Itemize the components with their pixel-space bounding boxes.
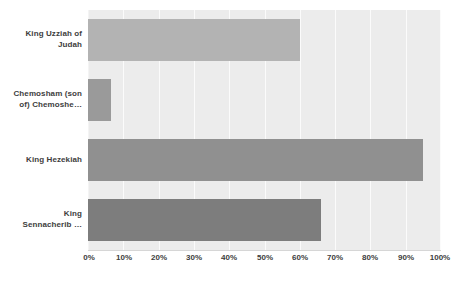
bar-chemosham[interactable] bbox=[88, 79, 111, 121]
x-tick-30: 30% bbox=[174, 253, 214, 262]
bar-band bbox=[88, 10, 441, 70]
bar-chart: King Uzziah of Judah Chemosham (son of) … bbox=[0, 0, 460, 285]
x-tick-0: 0% bbox=[69, 253, 109, 262]
bar-band bbox=[88, 190, 441, 250]
bar-king-uzziah-of-judah[interactable] bbox=[88, 19, 300, 61]
bar-band bbox=[88, 130, 441, 190]
x-axis-tick-labels: 0% 10% 20% 30% 40% 50% 60% 70% 80% 90% 1… bbox=[0, 253, 460, 267]
category-label-line: King bbox=[0, 209, 82, 220]
category-label-chemosham: Chemosham (son of) Chemoshe… bbox=[0, 89, 82, 110]
category-label-line: Chemosham (son bbox=[0, 89, 82, 100]
category-label-line: King Hezekiah bbox=[0, 155, 82, 166]
x-tick-60: 60% bbox=[280, 253, 320, 262]
category-label-king-uzziah-of-judah: King Uzziah of Judah bbox=[0, 29, 82, 50]
category-label-line: King Uzziah of bbox=[0, 29, 82, 40]
x-axis-line bbox=[88, 250, 441, 251]
x-tick-50: 50% bbox=[245, 253, 285, 262]
x-tick-40: 40% bbox=[209, 253, 249, 262]
x-tick-10: 10% bbox=[104, 253, 144, 262]
x-tick-80: 80% bbox=[350, 253, 390, 262]
category-label-line: Judah bbox=[0, 40, 82, 51]
category-label-line: Sennacherib … bbox=[0, 220, 82, 231]
x-tick-70: 70% bbox=[315, 253, 355, 262]
bar-band bbox=[88, 70, 441, 130]
category-label-line: of) Chemoshe… bbox=[0, 100, 82, 111]
category-label-king-hezekiah: King Hezekiah bbox=[0, 155, 82, 166]
bar-king-hezekiah[interactable] bbox=[88, 139, 423, 181]
x-tick-20: 20% bbox=[139, 253, 179, 262]
category-label-king-sennacherib: King Sennacherib … bbox=[0, 209, 82, 230]
bar-king-sennacherib[interactable] bbox=[88, 199, 321, 241]
x-tick-100: 100% bbox=[420, 253, 460, 262]
plot-area bbox=[88, 10, 441, 250]
